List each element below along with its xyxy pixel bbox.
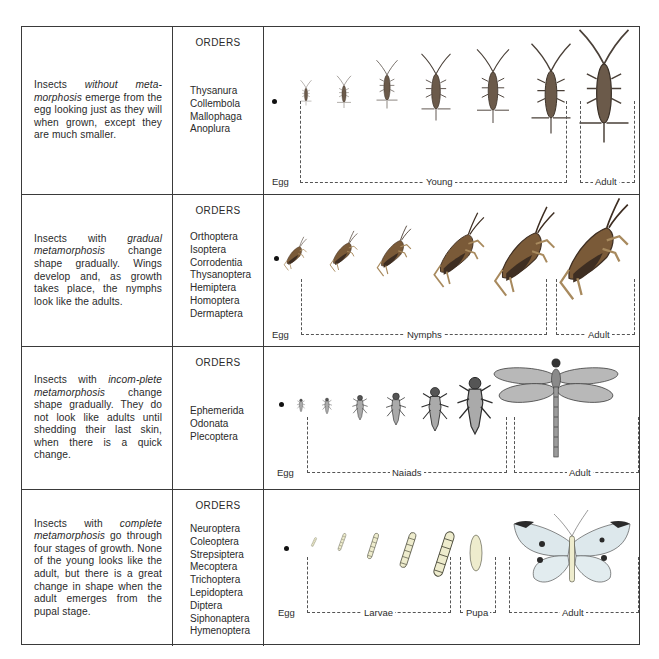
row-without-metamorphosis: Insects without meta-morphosis emerge fr… [22, 27, 639, 195]
orders-heading: ORDERS [173, 205, 263, 216]
stage-label-adult: Adult [567, 468, 593, 478]
stage-label-larvae: Larvae [362, 608, 395, 618]
orders-heading: ORDERS [173, 500, 263, 511]
order-item: Ephemerida [190, 405, 244, 418]
orders-list: Ephemerida Odonata Plecoptera [190, 405, 244, 443]
pupa-bracket [460, 557, 496, 613]
row-incomplete-metamorphosis: Insects with incom-plete metamorphosis c… [22, 347, 639, 490]
illustration-cell: Egg Young Adult [264, 27, 639, 194]
adult-bracket [514, 417, 639, 473]
description-text: Insects with complete metamorphosis go t… [22, 518, 172, 619]
description-cell: Insects with gradual metamorphosis chang… [22, 195, 173, 346]
illustration-cell: Egg Naiads Adult [264, 347, 639, 489]
order-item: Plecoptera [190, 431, 244, 444]
orders-cell: ORDERS Thysanura Collembola Mallophaga A… [173, 27, 264, 194]
young-bracket [300, 101, 567, 183]
orders-heading: ORDERS [173, 357, 263, 368]
stage-label-nymphs: Nymphs [405, 330, 444, 340]
order-item: Hemiptera [190, 282, 251, 295]
order-item: Mallophaga [190, 111, 242, 124]
description-cell: Insects with incom-plete metamorphosis c… [22, 347, 173, 489]
row-complete-metamorphosis: Insects with complete metamorphosis go t… [22, 490, 639, 646]
adult-bracket [580, 101, 635, 183]
orders-list: Neuroptera Coleoptera Strepsiptera Mecop… [190, 523, 250, 638]
order-item: Orthoptera [190, 231, 251, 244]
order-item: Neuroptera [190, 523, 250, 536]
description-text: Insects without meta-morphosis emerge fr… [22, 79, 172, 142]
order-item: Lepidoptera [190, 587, 250, 600]
stage-label-egg: Egg [276, 608, 297, 618]
order-item: Thysanoptera [190, 269, 251, 282]
stage-label-egg: Egg [275, 468, 296, 478]
row-gradual-metamorphosis: Insects with gradual metamorphosis chang… [22, 195, 639, 347]
naiads-bracket [307, 417, 507, 473]
stage-label-adult: Adult [593, 177, 619, 187]
description-text: Insects with gradual metamorphosis chang… [22, 233, 172, 309]
order-item: Trichoptera [190, 574, 250, 587]
adult-bracket [556, 279, 635, 335]
order-item: Strepsiptera [190, 549, 250, 562]
order-item: Hymenoptera [190, 625, 250, 638]
order-item: Odonata [190, 418, 244, 431]
illustration-cell: Egg Nymphs Adult [264, 195, 639, 346]
order-item: Anoplura [190, 123, 242, 136]
order-item: Coleoptera [190, 536, 250, 549]
stage-label-pupa: Pupa [464, 608, 490, 618]
order-item: Siphonaptera [190, 613, 250, 626]
description-cell: Insects with complete metamorphosis go t… [22, 490, 173, 646]
orders-cell: ORDERS Ephemerida Odonata Plecoptera [173, 347, 264, 489]
order-item: Homoptera [190, 295, 251, 308]
orders-list: Thysanura Collembola Mallophaga Anoplura [190, 85, 242, 136]
stage-label-naiads: Naiads [390, 468, 424, 478]
stage-label-adult: Adult [560, 608, 586, 618]
illustration-cell: Egg Larvae Pupa Adult [264, 490, 639, 646]
metamorphosis-table: Insects without meta-morphosis emerge fr… [21, 26, 640, 645]
order-item: Isoptera [190, 244, 251, 257]
order-item: Diptera [190, 600, 250, 613]
adult-bracket [509, 557, 639, 613]
orders-cell: ORDERS Neuroptera Coleoptera Strepsipter… [173, 490, 264, 646]
stage-label-adult: Adult [586, 330, 612, 340]
description-text: Insects with incom-plete metamorphosis c… [22, 374, 172, 462]
stage-label-egg: Egg [270, 177, 291, 187]
order-item: Collembola [190, 98, 242, 111]
nymphs-bracket [301, 279, 547, 335]
orders-list: Orthoptera Isoptera Corrodentia Thysanop… [190, 231, 251, 321]
order-item: Thysanura [190, 85, 242, 98]
order-item: Corrodentia [190, 257, 251, 270]
orders-heading: ORDERS [173, 37, 263, 48]
description-cell: Insects without meta-morphosis emerge fr… [22, 27, 173, 194]
stage-label-young: Young [424, 177, 455, 187]
stage-label-egg: Egg [270, 330, 291, 340]
larvae-bracket [307, 557, 451, 613]
order-item: Mecoptera [190, 561, 250, 574]
orders-cell: ORDERS Orthoptera Isoptera Corrodentia T… [173, 195, 264, 346]
order-item: Dermaptera [190, 308, 251, 321]
